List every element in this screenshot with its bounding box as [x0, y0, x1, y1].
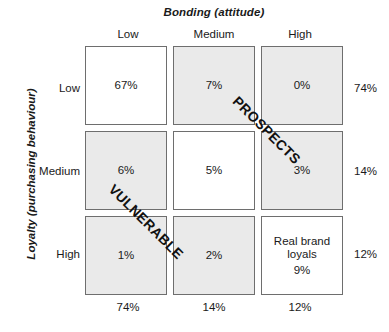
cell-value: 9%: [294, 264, 311, 277]
row-label-low: Low: [20, 46, 80, 129]
row-totals-column: 74% 14% 12%: [348, 46, 389, 295]
matrix-cell-high-high[interactable]: Real brand loyals 9%: [261, 216, 343, 295]
row-label-high: High: [20, 212, 80, 295]
row-total-low: 74%: [348, 46, 389, 129]
cell-value: 7%: [206, 79, 223, 92]
column-total-high: 12%: [257, 298, 343, 316]
cell-value: 3%: [294, 164, 311, 177]
row-label-medium: Medium: [20, 129, 80, 212]
column-header-high: High: [257, 26, 343, 42]
cell-value: 6%: [118, 164, 135, 177]
column-header-low: Low: [85, 26, 171, 42]
column-header-row: Low Medium High: [85, 26, 343, 42]
cell-segment-name: Real brand loyals: [262, 235, 342, 261]
cell-value: 2%: [206, 249, 223, 262]
cell-value: 0%: [294, 79, 311, 92]
matrix-cell-low-low[interactable]: 67%: [85, 46, 167, 125]
cell-value: 1%: [118, 249, 135, 262]
row-label-column: Low Medium High: [20, 46, 80, 295]
column-total-medium: 14%: [171, 298, 257, 316]
cell-value: 67%: [114, 79, 137, 92]
matrix-cell-medium-medium[interactable]: 5%: [173, 131, 255, 210]
x-axis-title: Bonding (attitude): [85, 6, 343, 18]
row-total-medium: 14%: [348, 129, 389, 212]
matrix-cell-high-medium[interactable]: 2%: [173, 216, 255, 295]
matrix-grid: 67% 7% 0% 6% 5% 3% 1% 2% Real brand loya…: [85, 46, 343, 295]
column-header-medium: Medium: [171, 26, 257, 42]
column-total-low: 74%: [85, 298, 171, 316]
row-total-high: 12%: [348, 212, 389, 295]
cell-value: 5%: [206, 164, 223, 177]
column-totals-row: 74% 14% 12%: [85, 298, 343, 316]
matrix-cell-low-high[interactable]: 0%: [261, 46, 343, 125]
